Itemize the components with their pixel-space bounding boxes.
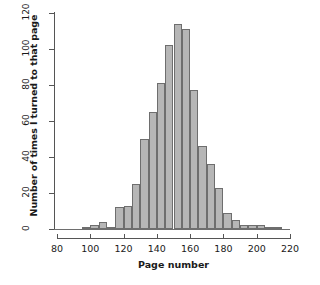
histogram-bar <box>190 90 198 229</box>
histogram-bar <box>124 206 132 229</box>
x-tick <box>257 234 258 239</box>
x-tick-label: 160 <box>172 243 208 254</box>
x-tick-label: 80 <box>39 243 75 254</box>
histogram-bar <box>223 213 231 229</box>
x-tick <box>90 234 91 239</box>
histogram-figure: Number of times I turned to that page 02… <box>0 0 320 285</box>
histogram-bar <box>149 112 157 229</box>
x-axis-line <box>57 238 290 239</box>
histogram-bar <box>198 146 206 229</box>
x-tick <box>157 234 158 239</box>
x-tick-label: 100 <box>72 243 108 254</box>
histogram-bar <box>174 24 182 229</box>
histogram-bar <box>132 184 140 229</box>
histogram-bar <box>115 207 123 229</box>
x-tick-label: 120 <box>106 243 142 254</box>
x-tick-label: 220 <box>272 243 308 254</box>
x-tick <box>124 234 125 239</box>
x-tick <box>57 234 58 239</box>
histogram-bar <box>207 164 215 229</box>
x-tick-label: 200 <box>239 243 275 254</box>
baseline <box>54 229 290 230</box>
x-tick-label: 140 <box>139 243 175 254</box>
x-tick <box>290 234 291 239</box>
histogram-bar <box>157 83 165 229</box>
histogram-bar <box>232 220 240 229</box>
x-tick-label: 180 <box>205 243 241 254</box>
histogram-bar <box>182 29 190 229</box>
histogram-bar <box>99 222 107 229</box>
histogram-bar <box>215 188 223 229</box>
x-tick <box>190 234 191 239</box>
histogram-bar <box>140 139 148 229</box>
x-axis-title: Page number <box>57 259 290 270</box>
x-tick <box>223 234 224 239</box>
histogram-bar <box>165 45 173 229</box>
